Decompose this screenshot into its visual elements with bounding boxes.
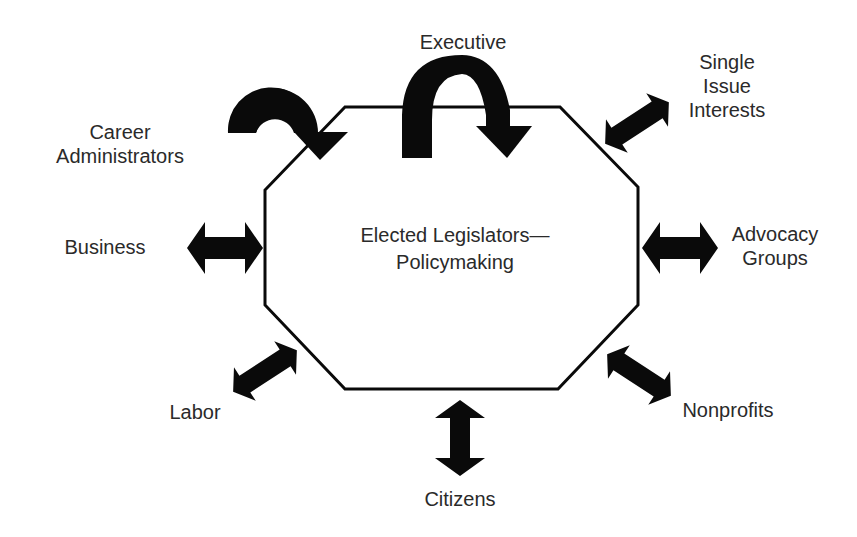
- advocacy-groups-arrow-icon: [642, 222, 718, 274]
- career-administrators-label: Career Administrators: [50, 120, 190, 168]
- center-label: Elected Legislators— Policymaking: [300, 222, 610, 276]
- career-administrators-line1: Career: [50, 120, 190, 144]
- single-issue-interests-line2: Issue: [672, 74, 782, 98]
- nonprofits-label-text: Nonprofits: [673, 398, 783, 422]
- executive-label: Executive: [413, 30, 513, 54]
- nonprofits-arrow-icon: [596, 338, 682, 413]
- single-issue-interests-arrow-icon: [594, 86, 680, 161]
- single-issue-interests-label: Single Issue Interests: [672, 50, 782, 122]
- career-administrators-line2: Administrators: [50, 144, 190, 168]
- advocacy-groups-label: Advocacy Groups: [720, 222, 830, 270]
- citizens-arrow-icon: [435, 400, 485, 476]
- labor-arrow-icon: [222, 334, 308, 409]
- labor-label: Labor: [160, 400, 230, 424]
- center-label-line1: Elected Legislators—: [300, 222, 610, 249]
- executive-label-text: Executive: [413, 30, 513, 54]
- center-label-line2: Policymaking: [300, 249, 610, 276]
- advocacy-groups-line2: Groups: [720, 246, 830, 270]
- business-label: Business: [50, 235, 160, 259]
- citizens-label-text: Citizens: [410, 487, 510, 511]
- business-label-text: Business: [50, 235, 160, 259]
- citizens-label: Citizens: [410, 487, 510, 511]
- advocacy-groups-line1: Advocacy: [720, 222, 830, 246]
- single-issue-interests-line3: Interests: [672, 98, 782, 122]
- business-arrow-icon: [187, 222, 263, 274]
- nonprofits-label: Nonprofits: [673, 398, 783, 422]
- labor-label-text: Labor: [160, 400, 230, 424]
- single-issue-interests-line1: Single: [672, 50, 782, 74]
